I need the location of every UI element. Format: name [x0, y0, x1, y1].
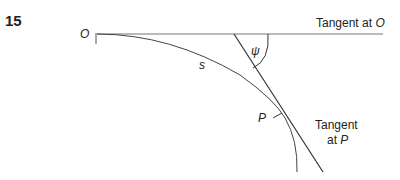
tangent-at-o-label: Tangent at O	[316, 16, 385, 30]
tangent-at-p-var: P	[340, 133, 348, 147]
angle-psi-label: ψ	[251, 44, 260, 58]
tangent-at-p-label-line1: Tangent	[315, 118, 358, 132]
tangent-angle-diagram: O s ψ P Tangent at O Tangent at P	[0, 0, 400, 180]
origin-label: O	[80, 27, 89, 41]
tangent-at-p-label-line2: at P	[327, 133, 348, 147]
arc-length-label: s	[199, 58, 205, 72]
tangent-at-p-text: at	[327, 133, 340, 147]
point-p-tick	[273, 113, 282, 118]
tangent-at-o-text: Tangent at	[316, 16, 375, 30]
curve	[97, 34, 297, 172]
tangent-at-p-line	[234, 34, 323, 172]
point-p-label: P	[258, 111, 266, 125]
tangent-at-o-var: O	[375, 16, 384, 30]
